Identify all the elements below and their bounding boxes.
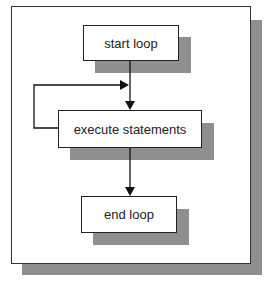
loop-back-line xyxy=(34,85,121,128)
arrow-down-icon xyxy=(125,187,135,196)
arrow-right-icon xyxy=(120,80,129,90)
connectors xyxy=(0,0,266,283)
arrow-down-icon xyxy=(125,101,135,110)
